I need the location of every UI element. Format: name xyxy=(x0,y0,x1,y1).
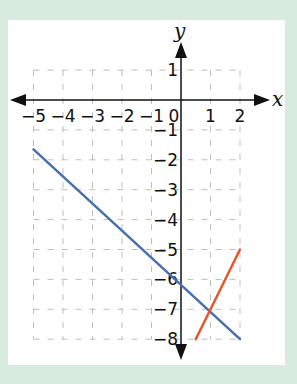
series-line xyxy=(196,250,240,340)
y-axis-up-arrow-icon xyxy=(175,42,187,58)
y-axis-label: y xyxy=(173,19,186,43)
y-tick-label: −2 xyxy=(153,150,178,170)
y-tick-label: −4 xyxy=(153,210,178,230)
y-tick-label: −5 xyxy=(153,240,178,260)
y-tick-label: −8 xyxy=(153,329,178,349)
y-tick-label: −1 xyxy=(153,120,178,140)
x-tick-label: 1 xyxy=(205,106,216,126)
x-axis-right-arrow-icon xyxy=(254,94,270,106)
coordinate-plane: x y −5−4−3−2−10121−1−2−3−4−5−6−7−8 xyxy=(0,0,297,384)
x-tick-label: 2 xyxy=(235,106,246,126)
x-tick-label: −4 xyxy=(50,106,75,126)
y-tick-label: −3 xyxy=(153,180,178,200)
x-tick-label: −2 xyxy=(109,106,134,126)
y-tick-label: 1 xyxy=(167,60,178,80)
x-axis-left-arrow-icon xyxy=(10,94,26,106)
data-series xyxy=(34,149,241,339)
y-tick-label: −7 xyxy=(153,299,178,319)
x-tick-label: −3 xyxy=(80,106,105,126)
x-axis-label: x xyxy=(272,87,283,111)
x-tick-label: −5 xyxy=(21,106,46,126)
